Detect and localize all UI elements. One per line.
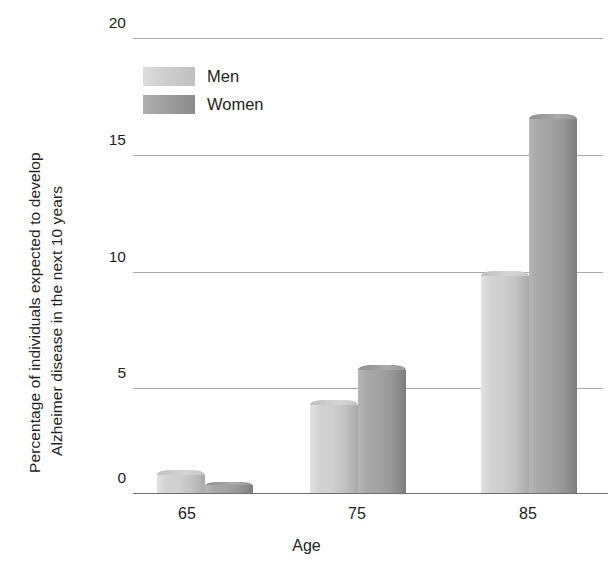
x-tick-label-65: 65 [157,505,217,523]
bar-men-65 [157,470,205,493]
gridline-20 [133,38,603,39]
y-tick-label-20: 20 [88,14,126,34]
y-tick-label-15: 15 [88,131,126,151]
x-tick-label-85: 85 [498,505,558,523]
legend-swatch-women-icon [143,95,195,114]
legend-item-men: Men [143,62,264,90]
x-axis-line [133,493,608,494]
bar-chart: Percentage of individuals expected to de… [0,0,613,578]
legend-swatch-men-icon [143,67,195,86]
legend-label-women: Women [207,95,264,114]
bar-men-85 [481,271,529,493]
bar-body [157,475,205,493]
x-axis-title: Age [0,537,613,555]
bar-women-65 [205,482,253,493]
y-axis-title-line-1: Percentage of individuals expected to de… [26,152,44,473]
bar-women-85 [529,114,577,493]
legend: Men Women [143,62,264,118]
y-tick-label-0: 0 [88,469,126,489]
y-tick-label-5: 5 [88,364,126,384]
legend-label-men: Men [207,67,239,86]
bar-body [205,485,253,493]
bar-body [481,276,529,493]
y-tick-label-10: 10 [88,248,126,268]
x-tick-label-75: 75 [327,505,387,523]
y-axis-title-line-2: Alzheimer disease in the next 10 years [48,186,66,456]
bar-body [310,405,358,493]
bar-women-75 [358,365,406,493]
bar-men-75 [310,400,358,493]
bar-body [358,370,406,493]
bar-body [529,119,577,493]
legend-item-women: Women [143,90,264,118]
